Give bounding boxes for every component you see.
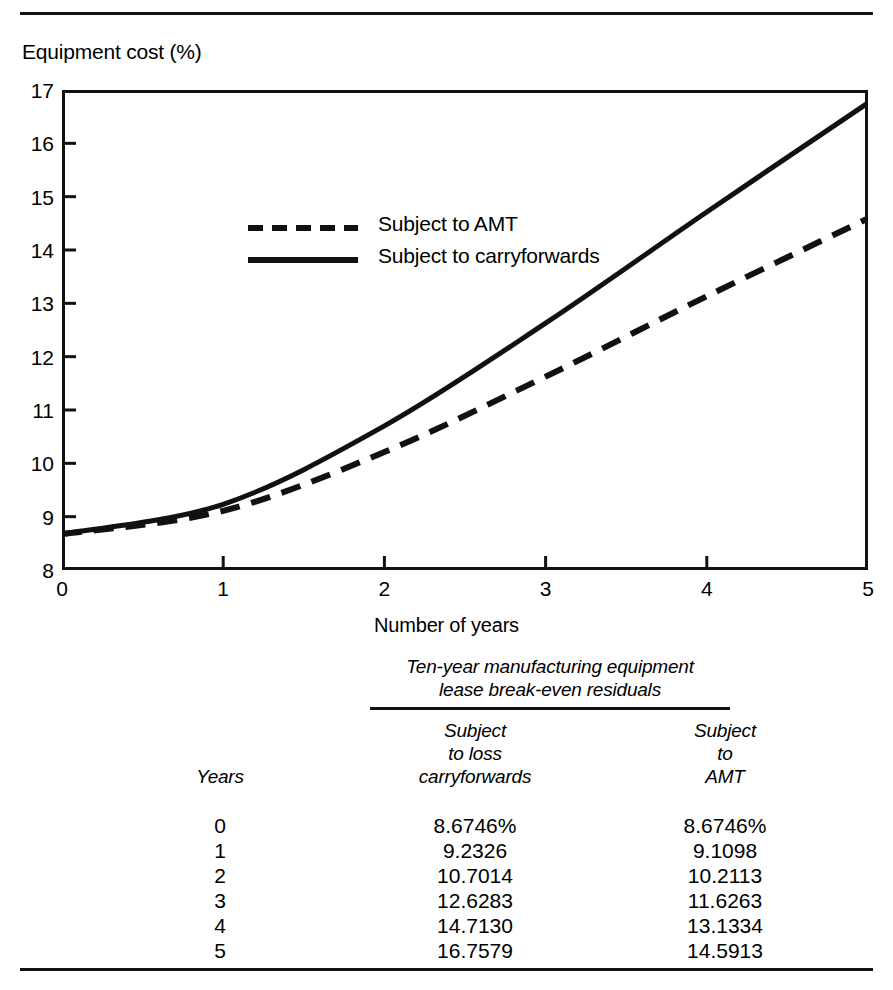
column-header-amt-line2: to bbox=[620, 742, 830, 765]
table-row: 08.6746%8.6746% bbox=[0, 813, 893, 838]
column-header-carryforwards-line3: carryforwards bbox=[370, 765, 580, 788]
y-tick-label-15: 15 bbox=[8, 186, 54, 207]
cell-carryforwards: 16.7579 bbox=[370, 938, 580, 963]
table-row: 312.628311.6263 bbox=[0, 888, 893, 913]
cell-amt: 8.6746% bbox=[620, 813, 830, 838]
cell-year: 0 bbox=[160, 813, 280, 838]
bottom-divider-rule bbox=[20, 968, 873, 971]
legend-label-amt: Subject to AMT bbox=[378, 212, 518, 236]
cell-amt: 9.1098 bbox=[620, 838, 830, 863]
y-tick-label-13: 13 bbox=[8, 293, 54, 314]
column-header-amt-line3: AMT bbox=[620, 765, 830, 788]
table-title-line2: lease break-even residuals bbox=[439, 679, 661, 700]
cell-year: 5 bbox=[160, 938, 280, 963]
cell-amt: 11.6263 bbox=[620, 888, 830, 913]
line-chart: Equipment cost (%) 171615141312111098 Su… bbox=[0, 30, 893, 650]
table-title-rule bbox=[370, 707, 730, 710]
x-axis-tick-labels: 012345 bbox=[62, 578, 868, 608]
x-tick-label-0: 0 bbox=[56, 578, 68, 599]
y-tick-label-9: 9 bbox=[8, 506, 54, 527]
table-row: 210.701410.2113 bbox=[0, 863, 893, 888]
x-axis-title: Number of years bbox=[0, 614, 893, 637]
y-tick-label-16: 16 bbox=[8, 133, 54, 154]
y-axis-tick-labels: 171615141312111098 bbox=[0, 90, 54, 570]
y-tick-label-14: 14 bbox=[8, 240, 54, 261]
table-title-line1: Ten-year manufacturing equipment bbox=[406, 656, 694, 677]
cell-amt: 14.5913 bbox=[620, 938, 830, 963]
legend-swatch-solid-icon bbox=[248, 257, 358, 263]
cell-year: 4 bbox=[160, 913, 280, 938]
plot-frame-border bbox=[62, 90, 868, 570]
cell-carryforwards: 14.7130 bbox=[370, 913, 580, 938]
cell-carryforwards: 12.6283 bbox=[370, 888, 580, 913]
x-tick-label-3: 3 bbox=[540, 578, 552, 599]
table-title: Ten-year manufacturing equipment lease b… bbox=[370, 655, 730, 701]
cell-year: 3 bbox=[160, 888, 280, 913]
cell-amt: 10.2113 bbox=[620, 863, 830, 888]
column-header-amt-line1: Subject bbox=[620, 719, 830, 742]
y-tick-label-8: 8 bbox=[8, 560, 54, 581]
figure-page: Equipment cost (%) 171615141312111098 Su… bbox=[0, 0, 893, 990]
cell-carryforwards: 10.7014 bbox=[370, 863, 580, 888]
table-rows: 08.6746%8.6746%19.23269.1098210.701410.2… bbox=[0, 813, 893, 963]
chart-legend: Subject to AMT Subject to carryforwards bbox=[248, 212, 668, 304]
table-row: 414.713013.1334 bbox=[0, 913, 893, 938]
table-row: 516.757914.5913 bbox=[0, 938, 893, 963]
column-header-years: Years bbox=[160, 765, 280, 788]
y-axis-title: Equipment cost (%) bbox=[22, 40, 202, 64]
table-row: 19.23269.1098 bbox=[0, 838, 893, 863]
legend-entry-carryforwards: Subject to carryforwards bbox=[248, 244, 668, 274]
y-tick-label-10: 10 bbox=[8, 453, 54, 474]
x-tick-label-2: 2 bbox=[379, 578, 391, 599]
legend-swatch-dashed-icon bbox=[248, 225, 358, 231]
y-tick-label-17: 17 bbox=[8, 80, 54, 101]
legend-entry-amt: Subject to AMT bbox=[248, 212, 668, 242]
cell-carryforwards: 9.2326 bbox=[370, 838, 580, 863]
column-header-carryforwards-line2: to loss bbox=[370, 742, 580, 765]
cell-year: 2 bbox=[160, 863, 280, 888]
data-table: Ten-year manufacturing equipment lease b… bbox=[0, 655, 893, 955]
column-header-amt: SubjecttoAMT bbox=[620, 719, 830, 788]
cell-amt: 13.1334 bbox=[620, 913, 830, 938]
column-header-carryforwards: Subjectto losscarryforwards bbox=[370, 719, 580, 788]
x-tick-label-4: 4 bbox=[701, 578, 713, 599]
column-header-carryforwards-line1: Subject bbox=[370, 719, 580, 742]
y-tick-label-12: 12 bbox=[8, 346, 54, 367]
x-tick-label-5: 5 bbox=[862, 578, 874, 599]
top-divider-rule bbox=[20, 12, 873, 15]
y-tick-label-11: 11 bbox=[8, 400, 54, 421]
legend-label-carryforwards: Subject to carryforwards bbox=[378, 244, 600, 268]
cell-year: 1 bbox=[160, 838, 280, 863]
plot-area: Subject to AMT Subject to carryforwards bbox=[62, 90, 868, 570]
x-tick-label-1: 1 bbox=[217, 578, 229, 599]
cell-carryforwards: 8.6746% bbox=[370, 813, 580, 838]
